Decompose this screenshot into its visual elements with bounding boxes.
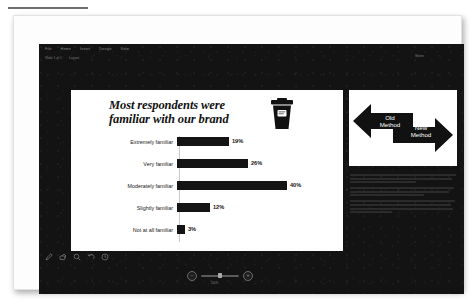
bar-value-label: 40% [290,180,301,191]
notes-side-panel: Old Method New Method [349,90,457,251]
bar-category-label: Not at all familiar [71,227,176,233]
old-method-label: Old Method [375,114,405,128]
menu-item-view[interactable]: View [121,47,130,51]
bar-chart: Extremely familiar 19% Very familiar 26%… [71,135,343,245]
note-text-line [350,181,416,183]
bar-fill [177,159,248,168]
chart-bar-row: Moderately familiar 40% [71,179,343,192]
clock-icon[interactable] [101,253,109,261]
chart-bar-row: Extremely familiar 19% [71,135,343,148]
menu-item-file[interactable]: File [45,47,52,51]
bar-value-label: 12% [213,202,224,213]
bar-fill [177,137,229,146]
slide-counter: Slide 1 of 1 [45,56,62,60]
bar-track: 3% [176,223,343,236]
note-text-line [350,204,451,206]
zoom-control: − 100% + [187,271,253,281]
old-method-line-1: Old [375,114,405,121]
layout-button[interactable]: Layout [69,56,79,60]
bar-value-label: 19% [232,136,243,147]
bar-value-label: 3% [188,224,196,235]
presentation-canvas: File Home Insert Design View Slide 1 of … [39,44,464,294]
menu-item-design[interactable]: Design [99,47,111,51]
top-divider-rule [8,7,88,9]
slide-info-bar: Slide 1 of 1 Layout [45,54,79,61]
annotation-toolbar [45,253,109,261]
menu-item-insert[interactable]: Insert [80,47,90,51]
old-new-method-diagram[interactable]: Old Method New Method [349,90,457,166]
new-method-line-1: New [406,124,436,131]
note-text-line [350,178,452,180]
notes-text-block[interactable] [350,174,456,217]
bar-fill [177,225,185,234]
chart-bar-row: Very familiar 26% [71,157,343,170]
bar-category-label: Extremely familiar [71,139,176,145]
menu-bar: File Home Insert Design View [39,44,464,53]
bar-track: 40% [176,179,343,192]
new-method-line-2: Method [406,131,436,138]
bar-track: 19% [176,135,343,148]
slide-title: Most respondents were familiar with our … [109,99,264,126]
zoom-level-label: 100% [211,281,218,285]
note-text-line [350,191,449,193]
bar-category-label: Slightly familiar [71,205,176,211]
note-text-line [350,211,392,213]
note-text-line [350,200,455,202]
undo-icon[interactable] [87,253,95,261]
pen-icon[interactable] [45,253,53,261]
bar-track: 26% [176,157,343,170]
chart-bar-row: Not at all familiar 3% [71,223,343,236]
note-paragraph [350,200,456,213]
double-arrow-shape [351,95,455,161]
zoom-in-button[interactable]: + [243,271,253,281]
application-window-frame: File Home Insert Design View Slide 1 of … [13,15,462,290]
zoom-slider[interactable]: 100% [201,272,239,280]
bar-value-label: 26% [251,158,262,169]
bar-fill [177,203,210,212]
zoom-icon[interactable] [73,253,81,261]
note-text-line [350,174,456,176]
slide-surface[interactable]: Most respondents were familiar with our … [71,90,343,251]
zoom-slider-thumb[interactable] [218,273,222,278]
note-paragraph [350,174,456,183]
menu-item-home[interactable]: Home [61,47,71,51]
zoom-out-button[interactable]: − [187,271,197,281]
bar-category-label: Very familiar [71,161,176,167]
bar-fill [177,181,287,190]
bar-category-label: Moderately familiar [71,183,176,189]
old-method-line-2: Method [375,121,405,128]
chart-bar-row: Slightly familiar 12% [71,201,343,214]
note-text-line [350,194,424,196]
new-method-label: New Method [406,124,436,138]
note-paragraph [350,187,456,196]
note-text-line [350,208,453,210]
coffee-cup-icon [269,98,295,130]
notes-panel-heading: Notes [415,54,424,58]
note-text-line [350,187,454,189]
bar-track: 12% [176,201,343,214]
eraser-icon[interactable] [59,253,67,261]
